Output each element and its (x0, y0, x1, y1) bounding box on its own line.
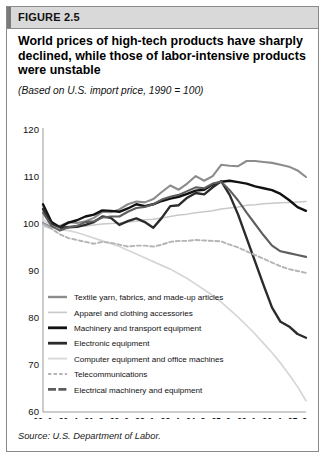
x-axis-tick-label: 93q4 (161, 416, 180, 419)
x-axis-tick-label: 90q4 (59, 416, 78, 419)
header-accent-bar (7, 7, 11, 28)
x-axis-tick-label: 94q3 (186, 416, 205, 419)
y-axis-tick-label: 70 (28, 359, 39, 370)
x-axis-tick-label: 96q1 (237, 416, 256, 419)
x-axis-tick-label: 96q4 (263, 416, 282, 419)
legend-label: Apparel and clothing accessories (74, 309, 193, 318)
x-axis-tick-label: 91q3 (84, 416, 103, 419)
source-note: Source: U.S. Department of Labor. (18, 431, 161, 441)
figure-number-label: FIGURE 2.5 (18, 11, 80, 23)
legend-label: Electronic equipment (74, 339, 150, 348)
legend-label: Computer equipment and office machines (74, 355, 224, 364)
y-axis-tick-label: 110 (24, 171, 39, 182)
legend-label: Electrical machinery and equipment (74, 386, 203, 395)
legend-label: Machinery and transport equipment (74, 324, 202, 333)
x-axis-tick-label: 95q2 (212, 416, 231, 419)
line-chart-svg: 6070809010011012090q190q491q392q293q193q… (18, 107, 310, 419)
legend-label: Telecommunications (74, 370, 147, 379)
y-axis-tick-label: 80 (28, 312, 39, 323)
y-axis-tick-label: 90 (28, 265, 39, 276)
chart-plot-area: 6070809010011012090q190q491q392q293q193q… (18, 107, 310, 419)
chart-series-line (43, 224, 306, 273)
y-axis-tick-label: 100 (23, 218, 39, 229)
figure-container: FIGURE 2.5 World prices of high-tech pro… (6, 6, 319, 452)
x-axis-tick-label: 90q1 (34, 416, 53, 419)
y-axis-tick-label: 120 (23, 124, 39, 135)
figure-subtitle: (Based on U.S. import price, 1990 = 100) (18, 85, 310, 96)
figure-title: World prices of high-tech products have … (18, 34, 310, 78)
chart-series-line (43, 182, 306, 257)
x-axis-tick-label: 97q3 (288, 416, 307, 419)
legend-label: Textile yarn, fabrics, and made-up artic… (74, 293, 223, 302)
x-axis-tick-label: 93q1 (135, 416, 154, 419)
x-axis-tick-label: 92q2 (110, 416, 129, 419)
